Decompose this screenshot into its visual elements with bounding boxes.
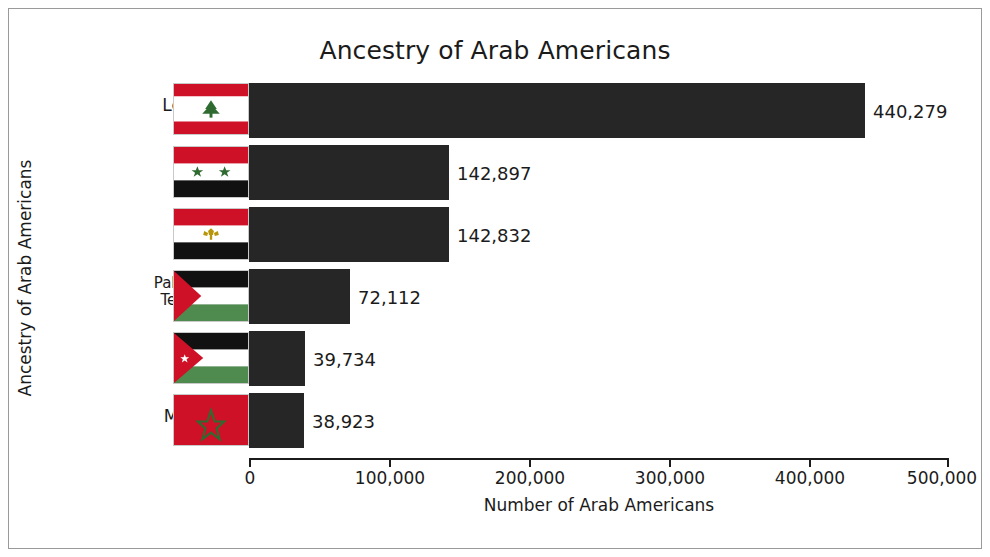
bar-value-jordan: 39,734 — [313, 348, 376, 369]
flag-jordan — [173, 332, 249, 384]
x-axis-tick — [809, 458, 811, 467]
y-axis-title-container: Ancestry of Arab Americans — [0, 0, 48, 557]
x-axis-tick-label: 300,000 — [635, 468, 705, 488]
flag-palestinian-territories — [173, 270, 249, 322]
x-axis-line — [249, 458, 949, 460]
x-axis-tick — [249, 458, 251, 467]
plot-area: 440,279 142,897 142,832 72,112 39,734 38… — [249, 74, 949, 456]
chart-title: Ancestry of Arab Americans — [0, 36, 990, 65]
flag-morocco — [173, 394, 249, 446]
x-axis-title: Number of Arab Americans — [249, 495, 949, 515]
bar-palestinian-territories[interactable] — [249, 269, 350, 324]
flag-lebanon — [173, 83, 249, 135]
bar-value-lebanon: 440,279 — [873, 100, 947, 121]
y-axis-title: Ancestry of Arab Americans — [15, 128, 35, 428]
x-axis-tick-label: 100,000 — [355, 468, 425, 488]
chart-figure: Ancestry of Arab Americans Ancestry of A… — [0, 0, 990, 557]
bar-value-morocco: 38,923 — [312, 410, 375, 431]
x-axis-tick-label: 500,000 — [907, 468, 977, 488]
bar-egypt[interactable] — [249, 207, 449, 262]
x-axis-tick — [529, 458, 531, 467]
x-axis-tick — [669, 458, 671, 467]
bar-jordan[interactable] — [249, 331, 305, 386]
bar-value-palestinian-territories: 72,112 — [358, 286, 421, 307]
bar-syria[interactable] — [249, 145, 449, 200]
flag-egypt — [173, 208, 249, 260]
bar-lebanon[interactable] — [249, 83, 865, 138]
x-axis-tick-label: 400,000 — [775, 468, 845, 488]
x-axis-tick — [389, 458, 391, 467]
flag-syria — [173, 146, 249, 198]
bar-value-syria: 142,897 — [457, 162, 531, 183]
bar-value-egypt: 142,832 — [457, 224, 531, 245]
bar-morocco[interactable] — [249, 393, 304, 448]
x-axis-tick-label: 0 — [245, 468, 256, 488]
x-axis-tick — [947, 458, 949, 467]
x-axis-tick-label: 200,000 — [495, 468, 565, 488]
